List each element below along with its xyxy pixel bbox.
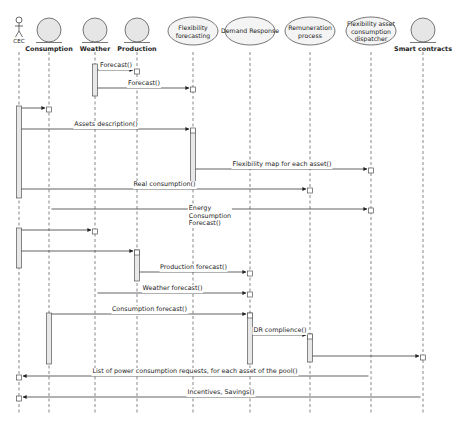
participant-label: Smart contracts: [394, 45, 452, 53]
receive-box: [17, 375, 22, 380]
lifelines: [19, 52, 423, 414]
receive-box: [191, 87, 196, 92]
message-label: Consumption forecast(): [111, 306, 188, 314]
receive-box: [248, 292, 253, 297]
receive-box: [421, 355, 426, 360]
participant-label: Flexibility asset consumption dispatcher: [347, 20, 395, 43]
participant-label: CEC: [13, 38, 24, 44]
receive-box: [308, 188, 313, 193]
participant-cec: [15, 17, 23, 37]
message-label: Forecast(): [99, 62, 133, 70]
message-label: Assets description(): [73, 121, 138, 129]
receive-box: [191, 128, 196, 133]
receive-box: [248, 313, 253, 318]
message-label: Production forecast(): [159, 264, 228, 272]
actor-icon: [16, 17, 22, 23]
message-label: DR complience(): [252, 327, 307, 335]
receive-box: [135, 69, 140, 74]
entity-icon: [411, 18, 435, 42]
message-label: Incentives, Savings(): [187, 389, 256, 397]
messages: [17, 69, 426, 401]
activation-bar: [17, 106, 22, 198]
participant-label: Weather: [80, 45, 111, 53]
receive-box: [369, 168, 374, 173]
participant-label: Demand Response: [221, 27, 279, 35]
participant-consumption: [36, 18, 62, 43]
participant-label: Production: [117, 45, 156, 53]
receive-box: [47, 107, 52, 112]
message-label: Real consumption(): [132, 181, 196, 189]
activation-bar: [17, 228, 22, 268]
participant-label: Remuneration process: [288, 24, 332, 39]
message-label: Energy Consumption Forecast(): [188, 205, 232, 228]
receive-box: [17, 396, 22, 401]
entity-icon: [37, 18, 61, 42]
receive-box: [135, 250, 140, 255]
activation-bar: [191, 129, 196, 182]
entity-icon: [125, 18, 149, 42]
participant-weather: [82, 18, 108, 43]
message-label: Flexibility map for each asset(): [231, 161, 332, 169]
entity-icon: [83, 18, 107, 42]
message-label: List of power consumption requests, for …: [92, 368, 299, 376]
activation-bars: [17, 64, 313, 364]
participant-smart_contracts: [410, 18, 436, 43]
receive-box: [369, 208, 374, 213]
participant-label: Consumption: [25, 45, 72, 53]
receive-box: [93, 229, 98, 234]
participant-label: Flexibility forecasting: [176, 24, 211, 39]
receive-box: [308, 334, 313, 339]
message-label: Forecast(): [127, 80, 161, 88]
message-label: Weather forecast(): [142, 285, 204, 293]
activation-bar: [93, 64, 98, 96]
activation-bar: [47, 313, 52, 364]
participant-production: [124, 18, 150, 43]
receive-box: [248, 271, 253, 276]
activation-bar: [248, 313, 253, 364]
